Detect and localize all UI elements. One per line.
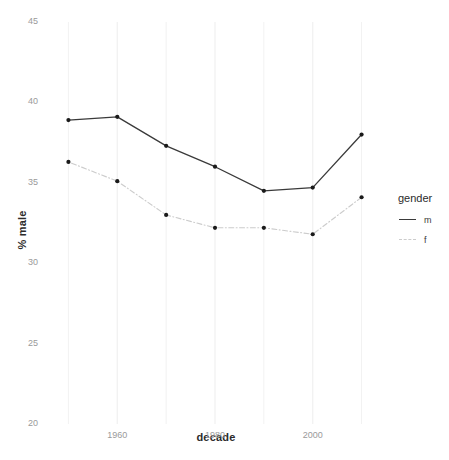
y-tick-label: 40 (12, 96, 38, 106)
data-point-m (262, 189, 266, 193)
plot-area (44, 22, 386, 424)
data-point-m (66, 118, 70, 122)
data-point-f (311, 232, 315, 236)
data-point-m (115, 115, 119, 119)
data-point-m (164, 144, 168, 148)
legend-entry-f[interactable]: f (398, 232, 449, 248)
data-point-m (213, 165, 217, 169)
data-point-f (66, 160, 70, 164)
legend-key-m-icon (398, 213, 418, 227)
data-point-f (115, 179, 119, 183)
plot-svg (44, 22, 386, 424)
data-point-f (262, 226, 266, 230)
data-point-m (311, 186, 315, 190)
y-tick-label: 35 (12, 177, 38, 187)
legend-swatch-line (399, 219, 416, 220)
y-tick-label: 45 (12, 16, 38, 26)
data-point-f (164, 213, 168, 217)
legend-title: gender (398, 192, 449, 204)
legend-entry-m[interactable]: m (398, 212, 449, 228)
data-point-f (213, 226, 217, 230)
x-tick-label: 1980 (195, 430, 235, 440)
legend-entries: mf (398, 212, 449, 248)
x-tick-label: 2000 (293, 430, 333, 440)
x-tick-label: 1960 (97, 430, 137, 440)
line-chart: % male decade 202530354045 196019802000 … (0, 0, 449, 460)
legend-swatch-line (399, 239, 416, 240)
data-point-f (359, 195, 363, 199)
y-tick-label: 25 (12, 338, 38, 348)
legend: gender mf (398, 192, 449, 252)
legend-label: f (424, 235, 427, 245)
y-tick-label: 20 (12, 418, 38, 428)
y-tick-label: 30 (12, 257, 38, 267)
legend-label: m (424, 215, 432, 225)
y-axis-title: % male (14, 0, 30, 460)
data-point-m (359, 132, 363, 136)
legend-key-f-icon (398, 233, 418, 247)
